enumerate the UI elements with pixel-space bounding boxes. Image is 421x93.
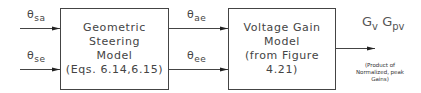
- voltage-gain-model-block: Voltage Gain Model (from Figure 4.21): [228, 8, 336, 90]
- block-text: Model: [96, 49, 132, 63]
- note-line: (Product of: [340, 62, 420, 69]
- block-text: Steering: [89, 35, 140, 49]
- mid-label-theta-ee: θee: [187, 49, 206, 64]
- output-note: (Product of Normalized, peak Gains): [340, 62, 420, 83]
- subscript: pv: [392, 21, 404, 32]
- note-line: Gains): [340, 76, 420, 83]
- note-line: Normalized, peak: [340, 69, 420, 76]
- subscript: se: [34, 54, 45, 64]
- geometric-steering-model-block: Geometric Steering Model (Eqs. 6.14,6.15…: [60, 8, 169, 90]
- g-symbol: G: [362, 14, 372, 29]
- block-text: Model: [264, 35, 300, 49]
- block-text: 4.21): [266, 63, 298, 77]
- output-label-gv-gpv: Gv Gpv: [362, 14, 404, 32]
- block-text: Geometric: [83, 21, 146, 35]
- input-label-theta-se: θse: [27, 49, 45, 64]
- input-label-theta-sa: θsa: [27, 8, 45, 23]
- subscript: sa: [34, 13, 45, 23]
- block-text: (from Figure: [245, 49, 319, 63]
- subscript: ae: [194, 13, 206, 23]
- subscript: v: [372, 21, 378, 32]
- block-text: Voltage Gain: [243, 21, 320, 35]
- subscript: ee: [194, 54, 206, 64]
- block-text: (Eqs. 6.14,6.15): [66, 63, 163, 77]
- mid-label-theta-ae: θae: [187, 8, 206, 23]
- g-symbol: G: [382, 14, 392, 29]
